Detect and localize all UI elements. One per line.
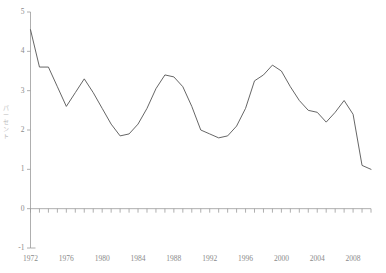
y-tick-label: 5 bbox=[11, 7, 25, 16]
x-tick-label: 1996 bbox=[231, 254, 261, 263]
data-line-0 bbox=[31, 30, 372, 170]
x-tick-label: 1984 bbox=[123, 254, 153, 263]
x-tick-label: 1992 bbox=[195, 254, 225, 263]
y-tick-label: -1 bbox=[11, 243, 25, 252]
x-tick-label: 1980 bbox=[87, 254, 117, 263]
x-tick-label: 1976 bbox=[51, 254, 81, 263]
x-tick-label: 1988 bbox=[159, 254, 189, 263]
y-tick-label: 2 bbox=[11, 125, 25, 134]
x-tick-label: 2000 bbox=[266, 254, 296, 263]
chart-container: パ ー セ ン ト 543210-1 197219761980198419881… bbox=[0, 0, 386, 273]
x-tick-label: 1972 bbox=[16, 254, 46, 263]
y-tick-label: 3 bbox=[11, 86, 25, 95]
y-tick-label: 1 bbox=[11, 164, 25, 173]
x-tick-label: 2004 bbox=[302, 254, 332, 263]
x-tick-label: 2008 bbox=[338, 254, 368, 263]
y-tick-label: 4 bbox=[11, 46, 25, 55]
y-tick-label: 0 bbox=[11, 204, 25, 213]
line-plot bbox=[0, 0, 386, 273]
